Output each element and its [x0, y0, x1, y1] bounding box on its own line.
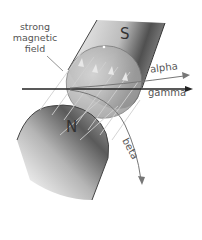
field-label-line-3: field	[12, 43, 58, 54]
north-magnet	[17, 105, 109, 200]
field-label-leader	[47, 56, 63, 71]
field-label-line-1: strong	[12, 21, 58, 32]
north-pole-label: N	[66, 118, 77, 136]
south-pole-label: S	[120, 25, 130, 43]
field-label-line-2: magnetic	[12, 32, 58, 43]
strong-magnetic-field-label: strong magnetic field	[12, 21, 58, 54]
gamma-label: gamma	[148, 87, 186, 98]
